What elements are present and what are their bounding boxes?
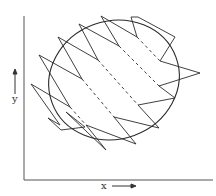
ellipse-orbit [32, 2, 196, 158]
x-axis-label: x [101, 181, 107, 191]
dashed-lines [70, 37, 160, 125]
phase-diagram [0, 0, 216, 196]
y-arrow-icon [13, 69, 17, 94]
x-arrow-icon [112, 184, 136, 188]
y-axis-label: y [12, 94, 18, 104]
zigzag-trajectory [31, 16, 200, 150]
